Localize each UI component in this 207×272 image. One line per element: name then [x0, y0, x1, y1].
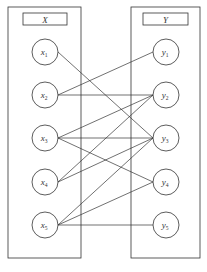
edge-x4-y2 — [58, 95, 153, 182]
edge-x5-y3 — [58, 138, 153, 225]
edge-x3-y2 — [58, 95, 153, 138]
edges — [58, 52, 153, 225]
bipartite-diagram: x1x2x3x4x5y1y2y3y4y5 X Y — [0, 0, 207, 272]
edge-x2-y1 — [58, 52, 153, 95]
edge-x5-y4 — [58, 182, 153, 225]
set-y-label: Y — [163, 15, 169, 25]
set-x-label: X — [41, 15, 48, 25]
